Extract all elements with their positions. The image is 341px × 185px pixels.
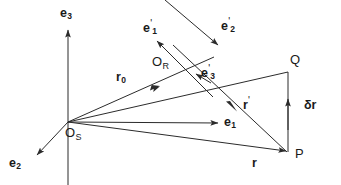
e2-prime-arrow: [165, 0, 218, 45]
os-to-q-line: [68, 72, 288, 122]
label-r: r: [252, 157, 257, 170]
e1-axis-arrow: [68, 122, 218, 123]
label-r0: r0: [116, 71, 126, 85]
e2-axis-arrow: [37, 122, 68, 155]
r-prime-vector: [173, 45, 287, 152]
r0-midarrow-icon: [150, 85, 160, 91]
label-e3-prime: e'3: [201, 64, 215, 80]
label-origin-s: OS: [65, 126, 81, 142]
vector-diagram-figure: e3 e2 e1 e'1 e'2 e'3 r0 r' r δr OS OR Q …: [0, 0, 341, 185]
label-point-q: Q: [290, 53, 300, 66]
label-e1-prime: e'1: [143, 19, 157, 35]
r0-vector: [68, 57, 214, 122]
label-e2: e2: [9, 157, 21, 171]
r-vector: [68, 122, 286, 151]
label-e2-prime: e'2: [221, 17, 235, 33]
label-r-prime: r': [243, 96, 250, 111]
diagram-canvas: [0, 0, 341, 185]
label-e1: e1: [224, 116, 236, 130]
label-point-p: P: [295, 147, 304, 160]
label-delta-r: δr: [304, 99, 316, 112]
label-e3: e3: [60, 7, 72, 21]
label-origin-r: OR: [152, 55, 169, 71]
r-prime-midarrow-icon: [226, 101, 237, 112]
